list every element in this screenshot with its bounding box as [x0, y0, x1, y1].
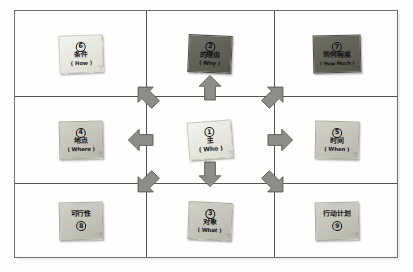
note-label-en-2: ( Why )	[199, 59, 221, 66]
note-label-en-3: ( What )	[198, 227, 222, 234]
cell-top-left: 6 条件 ( How )	[15, 11, 146, 96]
sticky-note-5[interactable]: 5 时间 ( When )	[314, 120, 359, 159]
cell-top-center: 2 的理由 ( Why )	[146, 11, 274, 96]
cell-middle-center: 1 主 ( Who )	[146, 96, 274, 183]
note-number-4: 4	[75, 127, 85, 137]
note-number-1: 1	[204, 126, 215, 137]
cell-bottom-center: 3 对象 ( What )	[146, 183, 274, 259]
note-label-en-7: ( How Much )	[319, 60, 353, 66]
cell-middle-right: 5 时间 ( When )	[274, 96, 399, 183]
note-number-6: 6	[75, 41, 85, 51]
note-label-en-5: ( When )	[324, 146, 349, 153]
sticky-note-1[interactable]: 1 主 ( Who )	[187, 119, 234, 160]
note-number-5: 5	[332, 127, 342, 137]
cell-bottom-right: 行动计划 9	[274, 183, 399, 259]
note-label-en-4: ( Where )	[67, 146, 95, 153]
note-label-zh-6: 条件	[74, 51, 88, 59]
sticky-note-3[interactable]: 3 对象 ( What )	[187, 201, 233, 241]
note-label-zh-4: 地点	[74, 137, 88, 145]
diagram-canvas: 6 条件 ( How ) 2 的理由 ( Why ) 7 到何程度 ( How …	[0, 0, 413, 272]
note-label-zh-7: 到何程度	[323, 52, 350, 60]
note-label-zh-2: 的理由	[200, 51, 221, 60]
sticky-note-7[interactable]: 7 到何程度 ( How Much )	[312, 34, 361, 73]
cell-bottom-left: 可行性 8	[15, 183, 146, 259]
sticky-note-8[interactable]: 可行性 8	[58, 202, 103, 241]
cell-middle-left: 4 地点 ( Where )	[15, 96, 146, 183]
sticky-note-6[interactable]: 6 条件 ( How )	[58, 34, 103, 74]
note-label-zh-8: 可行性	[70, 211, 91, 219]
note-number-9: 9	[332, 221, 342, 231]
note-label-zh-9: 行动计划	[323, 211, 350, 219]
note-label-en-1: ( Who )	[199, 145, 223, 154]
sticky-note-2[interactable]: 2 的理由 ( Why )	[187, 34, 233, 74]
matrix-frame: 6 条件 ( How ) 2 的理由 ( Why ) 7 到何程度 ( How …	[14, 10, 398, 258]
note-label-zh-3: 对象	[203, 219, 217, 227]
sticky-note-4[interactable]: 4 地点 ( Where )	[58, 120, 103, 159]
note-number-8: 8	[76, 221, 86, 231]
sticky-note-9[interactable]: 行动计划 9	[314, 202, 359, 241]
cell-top-right: 7 到何程度 ( How Much )	[274, 11, 399, 96]
note-label-zh-5: 时间	[330, 137, 344, 145]
note-label-en-6: ( How )	[70, 59, 91, 66]
note-number-2: 2	[205, 41, 215, 51]
